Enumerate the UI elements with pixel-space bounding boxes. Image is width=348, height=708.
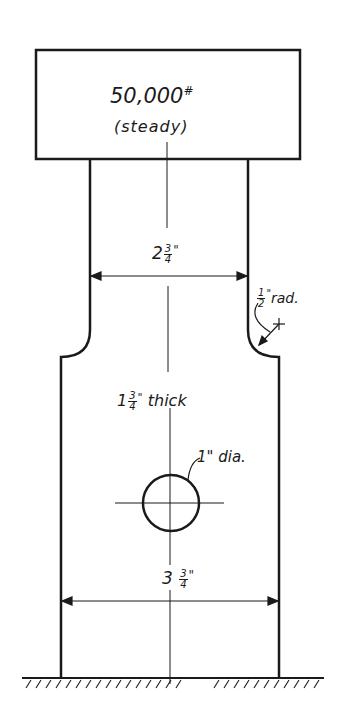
ground-support xyxy=(22,678,324,688)
radius-fraction: 12 xyxy=(257,288,265,309)
upper-width-fraction: 34 xyxy=(164,244,172,265)
inch-mark: " xyxy=(189,568,195,582)
lower-width-fraction: 34 xyxy=(179,569,187,590)
load-condition: (steady) xyxy=(114,117,188,136)
load-amount: 50,000 xyxy=(110,84,183,108)
fillet-radius-label: 12"rad. xyxy=(256,288,299,309)
hole-diameter-label: 1" dia. xyxy=(197,448,246,466)
inch-mark: " xyxy=(173,243,179,257)
lower-width-whole: 3 xyxy=(162,568,173,588)
radius-suffix: rad. xyxy=(271,290,299,306)
upper-width-label: 234" xyxy=(152,243,179,265)
fraction-numerator: 3 xyxy=(179,569,187,580)
upper-width-dimension xyxy=(91,272,247,280)
fraction-denominator: 2 xyxy=(257,299,265,309)
thickness-label: 134" thick xyxy=(117,391,187,412)
fraction-denominator: 4 xyxy=(179,580,187,590)
fraction-numerator: 3 xyxy=(164,244,172,255)
fraction-denominator: 4 xyxy=(164,255,172,265)
fillet-radius-leader xyxy=(255,303,285,345)
load-value: 50,000# xyxy=(110,84,194,108)
fraction-denominator: 4 xyxy=(128,402,136,412)
centerline xyxy=(167,142,170,684)
lower-width-label: 3 34" xyxy=(162,568,194,590)
thickness-fraction: 34 xyxy=(128,391,136,412)
pound-symbol: # xyxy=(183,84,193,98)
upper-width-whole: 2 xyxy=(152,243,163,263)
thickness-whole: 1 xyxy=(117,391,127,410)
inch-mark: " xyxy=(138,391,143,404)
thickness-suffix: thick xyxy=(148,391,187,410)
